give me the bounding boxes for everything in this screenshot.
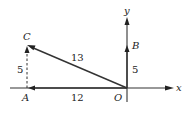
vector-AC-arrowhead: [25, 46, 30, 53]
vector-OA-length: 12: [71, 92, 84, 103]
x-axis-label: x: [176, 82, 182, 93]
point-B-label: B: [131, 40, 139, 51]
point-C-label: C: [23, 31, 31, 42]
vector-OC-length: 13: [71, 52, 84, 63]
point-A-label: A: [21, 92, 29, 103]
vector-OB-length: 5: [132, 64, 138, 75]
y-axis-label: y: [123, 5, 130, 16]
vector-OB-arrowhead: [125, 45, 130, 52]
vector-diagram: x y B 5 12 5 13 C A O: [0, 0, 190, 113]
y-axis-arrowhead: [125, 17, 130, 25]
origin-label: O: [114, 92, 122, 103]
vector-OC-arrowhead: [27, 45, 36, 50]
vector-AC-length: 5: [17, 64, 23, 75]
vector-OA-arrowhead: [28, 86, 35, 91]
x-axis-arrowhead: [165, 86, 174, 91]
